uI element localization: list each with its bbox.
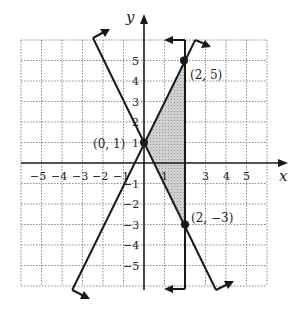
svg-text:−3: −3 [72, 170, 88, 183]
y-tick-labels: 5 4 3 2 1 −1 −2 −3 −4 −5 [123, 55, 139, 273]
svg-text:5: 5 [132, 55, 139, 68]
svg-text:−5: −5 [123, 260, 139, 273]
svg-text:−5: −5 [30, 170, 46, 183]
svg-text:4: 4 [223, 170, 230, 183]
svg-text:3: 3 [132, 96, 139, 109]
svg-text:1: 1 [132, 137, 139, 150]
svg-text:3: 3 [202, 170, 209, 183]
point-2-neg3 [181, 221, 189, 229]
x-tick-labels: −5 −4 −3 −2 −1 1 3 4 5 [30, 170, 250, 183]
svg-text:4: 4 [132, 75, 139, 88]
y-axis-label: y [125, 8, 135, 26]
point-label-0-1: (0, 1) [93, 137, 125, 151]
point-label-2-5: (2, 5) [190, 68, 222, 82]
point-0-1 [140, 139, 148, 147]
svg-text:−4: −4 [123, 239, 139, 252]
x-axis-arrow-icon [278, 159, 288, 167]
arrow-left-icon [164, 36, 173, 44]
y-axis-arrow-icon [140, 14, 148, 24]
point-2-5 [180, 57, 188, 65]
svg-text:−2: −2 [123, 198, 139, 211]
svg-text:−2: −2 [92, 170, 108, 183]
svg-text:5: 5 [243, 170, 250, 183]
svg-text:−4: −4 [51, 170, 67, 183]
x-axis-label: x [279, 167, 288, 185]
coordinate-plane: y x −5 −4 −3 −2 −1 1 3 4 5 5 4 3 2 1 −1 … [0, 0, 303, 312]
svg-text:−3: −3 [123, 219, 139, 232]
point-label-2-neg3: (2, −3) [191, 211, 233, 225]
